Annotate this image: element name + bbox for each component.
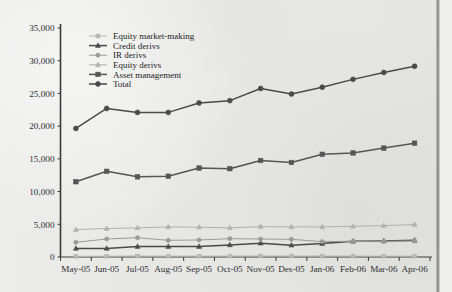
data-point-marker bbox=[197, 166, 201, 170]
data-point-marker bbox=[105, 254, 109, 258]
legend-label: IR derivs bbox=[113, 50, 147, 60]
data-point-marker bbox=[289, 237, 293, 241]
data-point-marker bbox=[197, 100, 202, 105]
data-point-marker bbox=[74, 180, 78, 184]
data-point-marker bbox=[381, 70, 386, 75]
data-point-marker bbox=[351, 77, 356, 82]
x-axis-tick-labels: May-05Jun-05Jul-05Aug-05Sep-05Oct-05Nov-… bbox=[61, 264, 428, 274]
data-point-marker bbox=[135, 236, 139, 240]
x-tick-label: Aug-05 bbox=[154, 264, 182, 274]
data-point-marker bbox=[104, 106, 109, 111]
legend-item-equity-market-making: Equity market-making bbox=[89, 31, 195, 41]
data-point-marker bbox=[382, 146, 386, 150]
data-point-marker bbox=[96, 34, 100, 38]
legend-item-asset-management: Asset management bbox=[89, 70, 182, 80]
data-point-marker bbox=[228, 166, 232, 170]
data-point-marker bbox=[96, 82, 101, 87]
data-point-marker bbox=[320, 240, 324, 244]
data-point-marker bbox=[259, 254, 263, 258]
data-point-marker bbox=[197, 254, 201, 258]
data-point-marker bbox=[351, 239, 355, 243]
legend-label: Total bbox=[113, 79, 132, 89]
data-point-marker bbox=[259, 237, 263, 241]
data-point-marker bbox=[412, 239, 416, 243]
y-tick-label: 25,000 bbox=[29, 89, 55, 99]
data-point-marker bbox=[227, 98, 232, 103]
legend-label: Asset management bbox=[113, 70, 182, 80]
data-point-marker bbox=[320, 254, 324, 258]
data-point-marker bbox=[135, 110, 140, 115]
legend-label: Equity derivs bbox=[113, 60, 162, 70]
chart-page: 05,00010,00015,00020,00025,00030,00035,0… bbox=[0, 0, 452, 292]
x-tick-label: Jul-05 bbox=[126, 264, 149, 274]
data-point-marker bbox=[166, 110, 171, 115]
x-tick-label: Feb-06 bbox=[340, 264, 366, 274]
x-tick-label: Nov-05 bbox=[247, 264, 275, 274]
data-point-marker bbox=[74, 254, 78, 258]
data-point-marker bbox=[166, 174, 170, 178]
series-asset-management bbox=[74, 141, 417, 184]
data-point-marker bbox=[228, 237, 232, 241]
data-point-marker bbox=[351, 151, 355, 155]
y-tick-label: 35,000 bbox=[29, 23, 55, 33]
data-point-marker bbox=[258, 158, 262, 162]
x-tick-label: Des-05 bbox=[278, 264, 305, 274]
legend-label: Credit derivs bbox=[113, 41, 160, 51]
data-point-marker bbox=[104, 169, 108, 173]
series-line bbox=[76, 238, 415, 243]
y-tick-label: 0 bbox=[50, 252, 55, 262]
y-tick-label: 30,000 bbox=[29, 56, 55, 66]
data-point-marker bbox=[413, 254, 417, 258]
x-tick-label: Jun-05 bbox=[94, 264, 119, 274]
data-point-marker bbox=[105, 237, 109, 241]
data-point-marker bbox=[412, 141, 416, 145]
data-point-marker bbox=[135, 175, 139, 179]
data-point-marker bbox=[197, 238, 201, 242]
legend-item-credit-derivs: Credit derivs bbox=[89, 41, 160, 51]
legend-label: Equity market-making bbox=[113, 31, 195, 41]
data-point-marker bbox=[166, 238, 170, 242]
series-equity-derivs bbox=[73, 222, 417, 232]
y-tick-label: 20,000 bbox=[29, 121, 55, 131]
x-tick-label: May-05 bbox=[61, 264, 90, 274]
x-tick-label: Apr-06 bbox=[401, 264, 428, 274]
data-point-marker bbox=[73, 126, 78, 131]
y-tick-label: 5,000 bbox=[34, 220, 55, 230]
series-credit-derivs bbox=[73, 238, 417, 251]
data-point-marker bbox=[228, 254, 232, 258]
data-point-marker bbox=[258, 86, 263, 91]
series-line bbox=[76, 225, 415, 230]
data-point-marker bbox=[74, 240, 78, 244]
x-tick-label: Oct-05 bbox=[217, 264, 243, 274]
data-point-marker bbox=[320, 152, 324, 156]
data-point-marker bbox=[289, 160, 293, 164]
x-tick-label: Mar-06 bbox=[370, 264, 398, 274]
legend-item-total: Total bbox=[89, 79, 132, 89]
y-tick-label: 15,000 bbox=[29, 154, 55, 164]
data-point-marker bbox=[351, 254, 355, 258]
x-tick-label: Sep-05 bbox=[186, 264, 212, 274]
y-axis-tick-labels: 05,00010,00015,00020,00025,00030,00035,0… bbox=[29, 23, 55, 262]
series-line bbox=[76, 143, 415, 182]
x-tick-label: Jan-06 bbox=[310, 264, 335, 274]
data-point-marker bbox=[382, 239, 386, 243]
data-point-marker bbox=[290, 254, 294, 258]
chart-legend: Equity market-makingCredit derivsIR deri… bbox=[89, 31, 195, 89]
data-point-marker bbox=[320, 85, 325, 90]
line-chart: 05,00010,00015,00020,00025,00030,00035,0… bbox=[0, 0, 452, 292]
data-point-marker bbox=[136, 254, 140, 258]
y-tick-label: 10,000 bbox=[29, 187, 55, 197]
legend-item-ir-derivs: IR derivs bbox=[89, 50, 147, 60]
data-point-marker bbox=[166, 254, 170, 258]
chart-series bbox=[73, 64, 417, 258]
data-point-marker bbox=[96, 53, 100, 57]
data-point-marker bbox=[412, 64, 417, 69]
data-point-marker bbox=[289, 92, 294, 97]
legend-item-equity-derivs: Equity derivs bbox=[89, 60, 162, 70]
data-point-marker bbox=[96, 72, 100, 76]
series-ir-derivs bbox=[74, 236, 417, 245]
data-point-marker bbox=[382, 254, 386, 258]
